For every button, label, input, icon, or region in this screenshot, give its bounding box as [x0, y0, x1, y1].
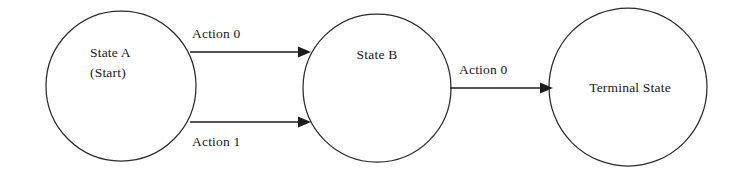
state-a-label-line1: State A [90, 45, 131, 60]
edge-b-terminal-action0-label: Action 0 [459, 62, 508, 77]
state-diagram-canvas: State A (Start) State B Terminal State A… [0, 0, 738, 175]
edge-a-b-action1[interactable]: Action 1 [190, 117, 311, 150]
state-b-circle[interactable] [303, 14, 451, 162]
edge-a-b-action1-label: Action 1 [192, 134, 240, 149]
node-terminal-state[interactable]: Terminal State [549, 8, 707, 166]
state-a-circle[interactable] [46, 11, 196, 161]
edge-a-b-action0-label: Action 0 [192, 26, 241, 41]
arrowhead-icon [298, 47, 311, 58]
edge-b-terminal-action0[interactable]: Action 0 [450, 62, 553, 94]
state-a-label-line2: (Start) [90, 65, 126, 80]
state-b-label: State B [357, 47, 398, 62]
state-transition-diagram: State A (Start) State B Terminal State A… [0, 0, 738, 175]
edge-a-b-action0[interactable]: Action 0 [190, 26, 311, 58]
terminal-state-label: Terminal State [589, 80, 671, 95]
node-state-a[interactable]: State A (Start) [46, 11, 196, 161]
node-state-b[interactable]: State B [303, 14, 451, 162]
